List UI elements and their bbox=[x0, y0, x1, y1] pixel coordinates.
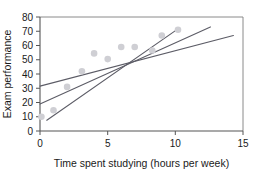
data-point bbox=[79, 68, 86, 75]
data-point bbox=[50, 107, 57, 114]
y-tick-label-10: 10 bbox=[22, 111, 34, 122]
scatter-points bbox=[38, 27, 181, 121]
x-tick-label-5: 5 bbox=[105, 138, 111, 149]
data-point bbox=[91, 50, 98, 57]
data-point bbox=[38, 114, 45, 121]
x-axis-ticks bbox=[40, 131, 243, 135]
y-tick-label-30: 30 bbox=[22, 83, 34, 94]
y-tick-label-20: 20 bbox=[22, 97, 34, 108]
data-point bbox=[104, 56, 111, 63]
y-tick-label-70: 70 bbox=[22, 26, 34, 37]
data-point bbox=[118, 44, 125, 51]
y-axis-ticks bbox=[36, 17, 40, 131]
regression-line-steep bbox=[47, 29, 178, 120]
data-point bbox=[131, 44, 138, 51]
y-tick-label-60: 60 bbox=[22, 40, 34, 51]
scatter-chart: 80 70 60 50 40 30 20 10 0 0 5 10 15 bbox=[0, 0, 255, 173]
y-tick-label-50: 50 bbox=[22, 54, 34, 65]
chart-canvas: 80 70 60 50 40 30 20 10 0 0 5 10 15 bbox=[0, 0, 255, 173]
x-tick-label-10: 10 bbox=[170, 138, 182, 149]
data-point bbox=[159, 32, 166, 39]
y-tick-label-80: 80 bbox=[22, 12, 34, 23]
y-axis-tick-labels: 80 70 60 50 40 30 20 10 0 bbox=[22, 12, 34, 137]
x-tick-label-15: 15 bbox=[237, 138, 249, 149]
y-axis-title: Exam performance bbox=[1, 29, 13, 118]
data-point bbox=[175, 27, 182, 34]
y-tick-label-40: 40 bbox=[22, 69, 34, 80]
y-tick-label-0: 0 bbox=[27, 126, 33, 137]
regression-lines bbox=[40, 27, 233, 120]
plot-frame bbox=[40, 17, 243, 131]
data-point bbox=[149, 47, 156, 54]
data-point bbox=[64, 84, 71, 91]
x-tick-label-0: 0 bbox=[37, 138, 43, 149]
x-axis-title: Time spent studying (hours per week) bbox=[54, 157, 229, 169]
x-axis-tick-labels: 0 5 10 15 bbox=[37, 138, 249, 149]
